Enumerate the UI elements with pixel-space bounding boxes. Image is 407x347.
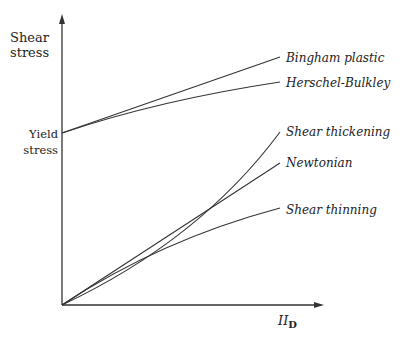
label-herschel-bulkley: Herschel-Bulkley — [285, 76, 391, 90]
x-axis-label-sub: D — [288, 319, 297, 330]
curve-shear-thickening — [62, 132, 280, 305]
curve-herschel-bulkley — [62, 82, 280, 133]
label-newtonian: Newtonian — [285, 156, 352, 170]
label-shear-thinning: Shear thinning — [286, 203, 377, 217]
curve-bingham-plastic — [62, 57, 280, 133]
x-axis-label: IID — [277, 313, 297, 330]
label-shear-thickening: Shear thickening — [286, 125, 391, 139]
y-axis-arrow-icon — [59, 14, 65, 24]
rheology-diagram: Bingham plastic Herschel-Bulkley Shear t… — [0, 0, 407, 347]
curve-newtonian — [62, 163, 280, 305]
label-bingham-plastic: Bingham plastic — [285, 51, 385, 65]
curve-shear-thinning — [62, 208, 280, 305]
x-axis-arrow-icon — [314, 302, 324, 308]
